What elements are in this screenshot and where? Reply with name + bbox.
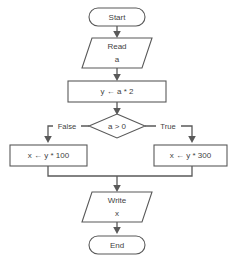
node-read-label-line2: a: [115, 55, 120, 64]
node-decision-label: a > 0: [108, 122, 127, 131]
node-read[interactable]: Read a: [82, 38, 152, 68]
node-assign-y-label: y ← a * 2: [101, 87, 134, 96]
flowchart-diagram: Start Read a y ← a * 2 a > 0 False True: [0, 0, 234, 264]
edge-label-true-text: True: [160, 122, 175, 131]
node-assign-x-false-label: x ← y * 100: [28, 151, 70, 160]
node-decision[interactable]: a > 0: [89, 114, 145, 138]
node-start-label: Start: [109, 13, 127, 22]
node-write-label-line2: x: [115, 209, 119, 218]
connector-merge-to-write: [48, 166, 192, 192]
node-write[interactable]: Write x: [82, 192, 152, 222]
node-write-label-line1: Write: [108, 196, 127, 205]
connector-read-to-assign-y: [113, 68, 121, 81]
connector-start-to-read: [113, 26, 121, 38]
node-assign-x-true-label: x ← y * 300: [170, 151, 212, 160]
connector-assign-y-to-decision: [113, 102, 121, 115]
node-read-label-line1: Read: [107, 42, 126, 51]
node-end[interactable]: End: [89, 236, 145, 254]
node-assign-x-true[interactable]: x ← y * 300: [154, 145, 227, 166]
node-assign-x-false[interactable]: x ← y * 100: [10, 145, 87, 166]
connector-write-to-end: [113, 222, 121, 234]
node-start[interactable]: Start: [89, 8, 145, 26]
node-assign-y[interactable]: y ← a * 2: [68, 81, 166, 102]
edge-label-false: False: [53, 121, 81, 132]
node-end-label: End: [110, 241, 124, 250]
edge-label-false-text: False: [58, 122, 77, 131]
edge-label-true: True: [156, 121, 181, 132]
